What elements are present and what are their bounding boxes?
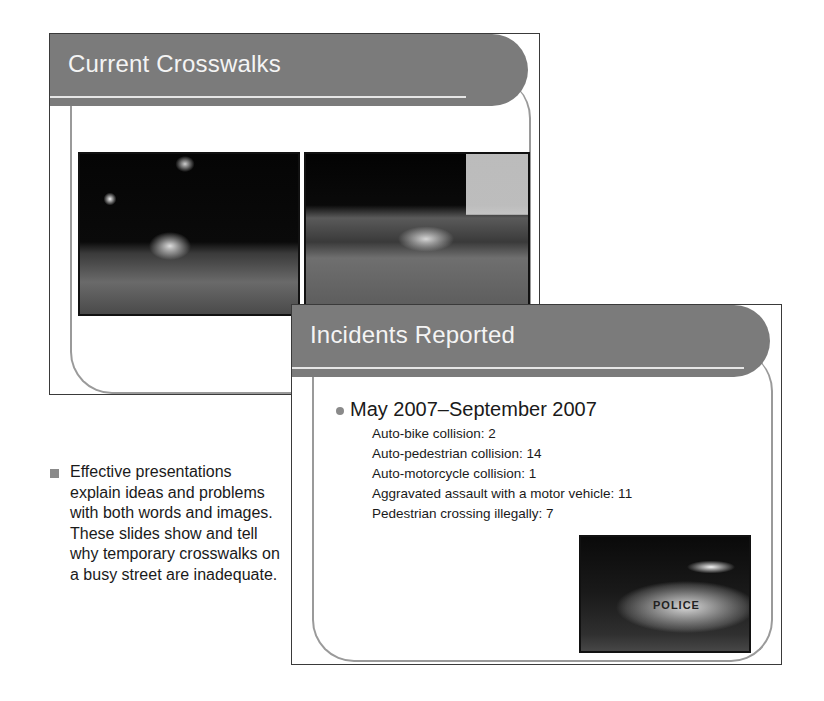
title-underline <box>292 367 744 369</box>
incident-item: Auto-pedestrian collision: 14 <box>372 444 632 464</box>
incident-item: Pedestrian crossing illegally: 7 <box>372 504 632 524</box>
square-bullet-icon <box>50 469 59 478</box>
police-car-photo: POLICE <box>579 535 751 653</box>
date-range-text: May 2007–September 2007 <box>350 398 597 420</box>
date-range-bullet: May 2007–September 2007 <box>334 398 597 421</box>
incident-item: Aggravated assault with a motor vehicle:… <box>372 484 632 504</box>
incident-item: Auto-bike collision: 2 <box>372 424 632 444</box>
title-bar: Current Crosswalks <box>50 34 528 106</box>
slide-incidents-reported: Incidents Reported May 2007–September 20… <box>291 304 782 665</box>
slide-title: Current Crosswalks <box>68 50 281 78</box>
slide-title: Incidents Reported <box>310 321 515 349</box>
crosswalk-photo-left <box>78 152 300 316</box>
caption: Effective presentations explain ideas an… <box>50 462 280 585</box>
incident-list: Auto-bike collision: 2 Auto-pedestrian c… <box>372 424 632 524</box>
title-underline <box>50 96 466 98</box>
caption-text: Effective presentations explain ideas an… <box>70 462 280 585</box>
police-label: POLICE <box>653 599 700 611</box>
title-bar: Incidents Reported <box>292 305 770 377</box>
crosswalk-photo-right <box>304 152 530 316</box>
incident-item: Auto-motorcycle collision: 1 <box>372 464 632 484</box>
